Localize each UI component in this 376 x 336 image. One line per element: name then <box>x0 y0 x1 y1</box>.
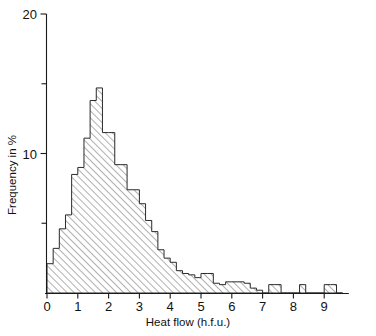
histogram-chart: 1020 0123456789 Heat flow (h.f.u.) Frequ… <box>0 0 376 336</box>
x-tick-label: 7 <box>259 299 266 314</box>
plot-area <box>47 88 343 293</box>
x-tick-label: 1 <box>74 299 81 314</box>
x-axis-title: Heat flow (h.f.u.) <box>146 316 231 328</box>
histogram-bars <box>47 88 343 293</box>
x-axis: 0123456789 <box>43 294 348 315</box>
x-tick-label: 8 <box>290 299 297 314</box>
x-tick-label: 4 <box>167 299 174 314</box>
chart-canvas: 1020 0123456789 Heat flow (h.f.u.) Frequ… <box>0 0 376 336</box>
x-tick-label: 9 <box>321 299 328 314</box>
y-axis: 1020 <box>23 7 47 294</box>
y-tick-label: 10 <box>23 147 37 162</box>
y-tick-label: 20 <box>23 7 37 22</box>
x-tick-label: 6 <box>228 299 235 314</box>
x-tick-label: 0 <box>43 299 50 314</box>
y-axis-title: Frequency in % <box>6 135 18 215</box>
x-tick-label: 3 <box>136 299 143 314</box>
x-tick-label: 5 <box>197 299 204 314</box>
x-tick-label: 2 <box>105 299 112 314</box>
